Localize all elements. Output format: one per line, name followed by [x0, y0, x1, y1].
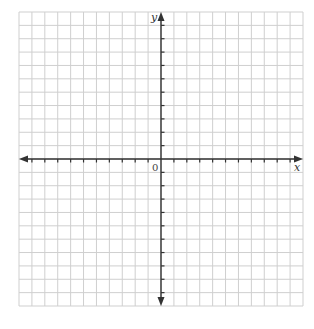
y-axis-label: y [150, 11, 158, 24]
origin-label: 0 [152, 162, 158, 173]
coordinate-plane: y x 0 [0, 0, 314, 329]
x-axis-left-arrow-icon [19, 156, 28, 163]
axes [19, 12, 303, 306]
y-axis-down-arrow-icon [158, 297, 165, 306]
x-axis-label: x [294, 161, 301, 174]
y-axis-up-arrow-icon [158, 12, 165, 21]
